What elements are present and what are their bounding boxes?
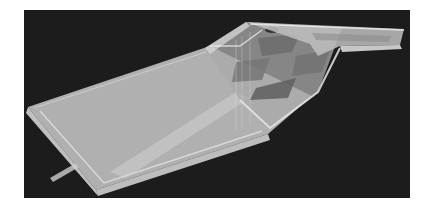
3d-viewport[interactable]: Translucent gray 3D model of a slab/walk… <box>24 10 410 198</box>
model-render <box>24 10 410 198</box>
